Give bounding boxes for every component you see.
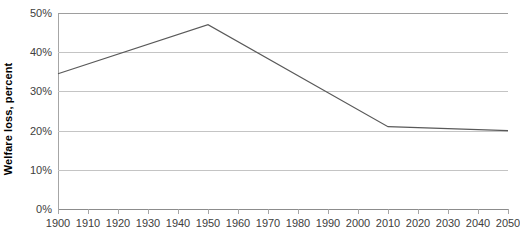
y-tick-label-0: 0%	[18, 204, 52, 215]
plot-area	[58, 13, 508, 209]
x-tick-2030	[448, 209, 449, 214]
x-tick-label-1950: 1950	[196, 216, 220, 230]
y-axis-tick-labels: 0%10%20%30%40%50%	[18, 0, 52, 238]
x-tick-1950	[208, 209, 209, 214]
x-tick-1970	[268, 209, 269, 214]
x-tick-1930	[148, 209, 149, 214]
x-tick-1900	[58, 209, 59, 214]
x-tick-label-2000: 2000	[346, 216, 370, 230]
x-tick-1910	[88, 209, 89, 214]
x-tick-label-2010: 2010	[376, 216, 400, 230]
x-tick-label-1970: 1970	[256, 216, 280, 230]
y-tick-label-20: 20%	[18, 125, 52, 136]
x-tick-label-2050: 2050	[496, 216, 520, 230]
x-tick-2020	[418, 209, 419, 214]
x-tick-label-1930: 1930	[136, 216, 160, 230]
x-tick-label-2020: 2020	[406, 216, 430, 230]
x-tick-1920	[118, 209, 119, 214]
y-axis-title: Welfare loss, percent	[0, 0, 16, 238]
x-tick-label-1900: 1900	[46, 216, 70, 230]
x-tick-1960	[238, 209, 239, 214]
y-tick-label-40: 40%	[18, 47, 52, 58]
x-tick-2010	[388, 209, 389, 214]
x-tick-2040	[478, 209, 479, 214]
data-series-line	[58, 13, 508, 209]
x-tick-2000	[358, 209, 359, 214]
x-axis-ticks	[58, 209, 508, 215]
x-tick-label-2030: 2030	[436, 216, 460, 230]
x-tick-label-2040: 2040	[466, 216, 490, 230]
x-tick-1940	[178, 209, 179, 214]
line-chart: Welfare loss, percent 0%10%20%30%40%50% …	[0, 0, 520, 238]
x-tick-1990	[328, 209, 329, 214]
x-tick-label-1910: 1910	[76, 216, 100, 230]
y-tick-label-30: 30%	[18, 86, 52, 97]
y-tick-label-10: 10%	[18, 164, 52, 175]
x-tick-label-1990: 1990	[316, 216, 340, 230]
x-tick-label-1980: 1980	[286, 216, 310, 230]
x-tick-label-1920: 1920	[106, 216, 130, 230]
x-tick-label-1940: 1940	[166, 216, 190, 230]
x-axis-tick-labels: 1900191019201930194019501960197019801990…	[58, 216, 508, 232]
x-tick-2050	[508, 209, 509, 214]
x-tick-label-1960: 1960	[226, 216, 250, 230]
y-tick-label-50: 50%	[18, 8, 52, 19]
x-tick-1980	[298, 209, 299, 214]
